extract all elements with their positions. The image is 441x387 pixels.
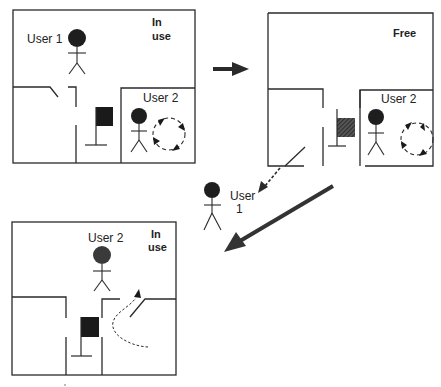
user-head-icon bbox=[93, 246, 111, 264]
user-label: User 2 bbox=[88, 231, 124, 245]
user-label: User 1 bbox=[27, 32, 63, 46]
wall bbox=[268, 89, 323, 108]
user-head-icon bbox=[68, 29, 86, 47]
user-head-icon bbox=[131, 108, 147, 124]
user-2-figure bbox=[93, 246, 111, 291]
flag-hatched-icon bbox=[328, 109, 355, 146]
flag-icon bbox=[85, 107, 113, 145]
leave-arrow-icon bbox=[258, 168, 280, 193]
status-label: use bbox=[148, 241, 167, 253]
departing-user-figure bbox=[204, 182, 221, 230]
status-label: In bbox=[152, 16, 162, 28]
user-head-icon bbox=[368, 109, 384, 125]
status-label: use bbox=[152, 30, 171, 42]
wall bbox=[68, 87, 76, 107]
entry-path-arrow-icon bbox=[113, 289, 148, 347]
status-label: Free bbox=[393, 27, 416, 39]
user-label: User 2 bbox=[143, 91, 179, 105]
user-label: User 2 bbox=[381, 92, 417, 106]
wall bbox=[12, 297, 66, 318]
rotation-cycle-icon bbox=[401, 122, 433, 156]
user-2-figure bbox=[368, 109, 384, 155]
rotation-cycle-icon bbox=[153, 118, 185, 151]
open-door bbox=[130, 299, 176, 317]
artifact-dot bbox=[64, 384, 66, 386]
user-label: User bbox=[230, 189, 255, 203]
status-label: In bbox=[151, 228, 161, 240]
open-door bbox=[285, 147, 305, 166]
transition-arrow-icon bbox=[213, 62, 249, 76]
wall-with-door bbox=[13, 87, 58, 97]
diagram-canvas: User 1 In use User 2 bbox=[0, 0, 441, 387]
user-1-figure bbox=[68, 29, 86, 74]
user-label: 1 bbox=[236, 202, 243, 216]
flag-icon bbox=[71, 317, 99, 356]
user-2-figure bbox=[131, 108, 147, 152]
user-head-icon bbox=[204, 182, 220, 198]
